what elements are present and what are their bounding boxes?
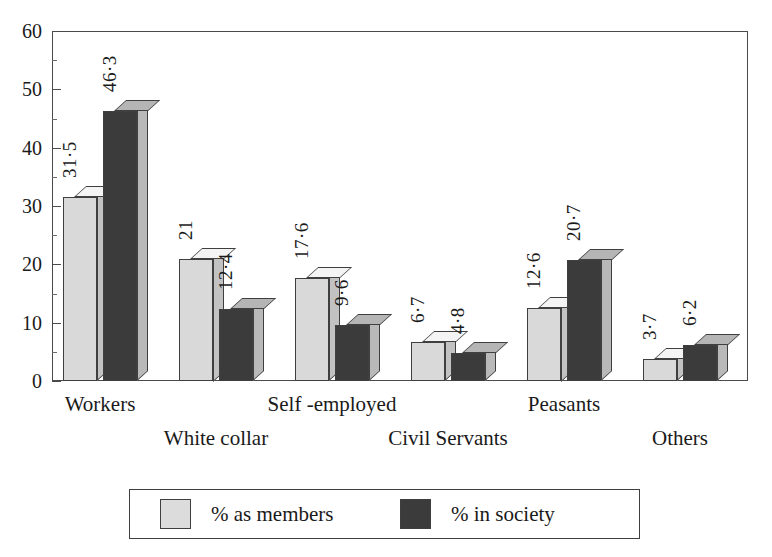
bar-group: 3·76·2 (52, 31, 748, 381)
y-axis-tick-minor (52, 119, 57, 120)
category-label: Others (652, 428, 708, 449)
legend-entry[interactable]: % as members (160, 499, 333, 529)
y-axis-tick-major (52, 89, 61, 90)
y-axis-tick-label: 20 (22, 254, 42, 274)
category-axis-labels: WorkersWhite collarSelf -employedCivil S… (0, 388, 772, 470)
bar-value-label: 3·7 (640, 314, 659, 341)
category-label: Peasants (528, 394, 600, 415)
y-axis-tick-minor (52, 352, 57, 353)
y-axis-tick-major (52, 381, 61, 382)
y-axis-tick-minor (52, 60, 57, 61)
legend-label: % as members (211, 504, 333, 525)
legend-swatch-dark (400, 499, 431, 529)
y-axis-tick-minor (52, 235, 57, 236)
category-label: Self -employed (268, 394, 397, 415)
y-axis-tick-major (52, 206, 61, 207)
legend-label: % in society (451, 504, 555, 525)
category-label: Workers (65, 394, 136, 415)
y-axis-tick-label: 40 (22, 138, 42, 158)
y-axis-tick-label: 50 (22, 79, 42, 99)
y-axis-tick-major (52, 264, 61, 265)
legend-swatch-light (160, 499, 191, 529)
bar: 6·2 (683, 345, 717, 381)
bars-layer: 31·546·32112·417·69·66·74·812·620·73·76·… (52, 31, 748, 381)
y-axis-tick-major (52, 323, 61, 324)
y-axis-tick-label: 30 (22, 196, 42, 216)
y-axis-tick-label: 10 (22, 313, 42, 333)
category-label: Civil Servants (388, 428, 508, 449)
y-axis-tick-minor (52, 177, 57, 178)
bar-value-label: 6·2 (680, 299, 699, 326)
legend-entry[interactable]: % in society (400, 499, 555, 529)
y-axis-tick-minor (52, 294, 57, 295)
category-label: White collar (164, 428, 268, 449)
y-axis: 0102030405060 (0, 0, 52, 390)
bar-front-face (643, 359, 677, 381)
y-axis-tick-label: 60 (22, 21, 42, 41)
y-axis-tick-major (52, 148, 61, 149)
bar-front-face (683, 345, 717, 381)
bar-top-face (694, 334, 740, 345)
bar: 3·7 (643, 359, 677, 381)
legend: % as members% in society (129, 489, 640, 539)
y-axis-tick-major (52, 31, 61, 32)
